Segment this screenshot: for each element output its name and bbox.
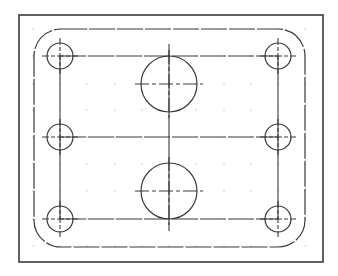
- grid-dot: [115, 219, 116, 220]
- grid-dot: [305, 29, 306, 30]
- grid-dot: [251, 110, 252, 111]
- grid-dot: [33, 246, 34, 247]
- hole-bottom-left[interactable]: [42, 201, 78, 237]
- construction-lines: [60, 44, 278, 231]
- grid-dot: [169, 246, 170, 247]
- grid-dot: [115, 110, 116, 111]
- grid-dot: [115, 246, 116, 247]
- grid-dot: [33, 56, 34, 57]
- grid-dot: [87, 191, 88, 192]
- grid-dot: [87, 137, 88, 138]
- grid-dot: [33, 110, 34, 111]
- grid-dot: [142, 110, 143, 111]
- hole-mid-left[interactable]: [42, 119, 78, 155]
- drawing-frame: [19, 15, 323, 262]
- grid-dot: [196, 246, 197, 247]
- grid-dot: [33, 137, 34, 138]
- grid-dot: [33, 164, 34, 165]
- grid-dot: [115, 191, 116, 192]
- grid-dot: [87, 110, 88, 111]
- grid-dot: [115, 56, 116, 57]
- cad-drawing-canvas[interactable]: [0, 0, 338, 276]
- grid-dot: [60, 246, 61, 247]
- grid-dot: [115, 84, 116, 85]
- grid-dot: [33, 29, 34, 30]
- grid-dot: [142, 246, 143, 247]
- grid-dot: [196, 164, 197, 165]
- plate-drawing: [0, 0, 338, 276]
- grid-dot: [224, 164, 225, 165]
- grid-dot: [305, 246, 306, 247]
- grid-dot: [251, 84, 252, 85]
- hole-top-right[interactable]: [260, 38, 296, 74]
- grid-dot: [87, 84, 88, 85]
- grid-dot: [115, 137, 116, 138]
- grid-dot: [142, 164, 143, 165]
- hole-top-left[interactable]: [42, 38, 78, 74]
- grid-dot: [33, 84, 34, 85]
- grid-dot: [87, 219, 88, 220]
- grid-dot: [224, 191, 225, 192]
- grid-dot: [33, 191, 34, 192]
- grid-dot: [278, 246, 279, 247]
- grid-dot: [224, 84, 225, 85]
- hole-mid-right[interactable]: [260, 119, 296, 155]
- grid-dot: [87, 164, 88, 165]
- grid-dot: [251, 246, 252, 247]
- grid-dot: [33, 219, 34, 220]
- grid-dot: [196, 110, 197, 111]
- grid-dot: [87, 56, 88, 57]
- grid-dot: [224, 246, 225, 247]
- grid-dot: [251, 164, 252, 165]
- bore-bottom[interactable]: [135, 157, 203, 225]
- hole-bottom-right[interactable]: [260, 201, 296, 237]
- grid-dot: [251, 191, 252, 192]
- bore-top[interactable]: [135, 50, 203, 118]
- grid-dot: [224, 110, 225, 111]
- grid-dot: [87, 246, 88, 247]
- grid-dot: [115, 164, 116, 165]
